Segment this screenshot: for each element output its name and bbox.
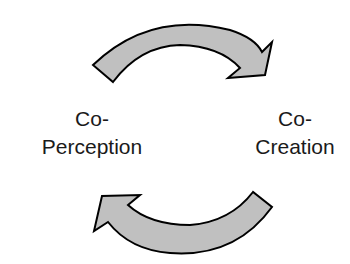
left-label-line1: Co-: [22, 105, 162, 133]
co-perception-label: Co- Perception: [22, 105, 162, 161]
right-label-line2: Creation: [240, 133, 350, 161]
curved-arrow-right-icon: [93, 25, 272, 82]
left-label-line2: Perception: [22, 133, 162, 161]
curved-arrow-left-icon: [94, 192, 272, 253]
co-creation-label: Co- Creation: [240, 105, 350, 161]
right-label-line1: Co-: [240, 105, 350, 133]
